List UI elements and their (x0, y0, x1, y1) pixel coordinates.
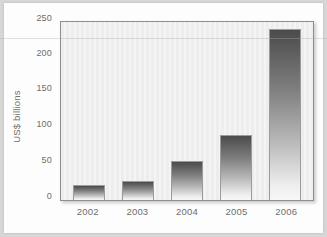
y-tick-label-0: 0 (47, 191, 52, 201)
bar-2003[interactable] (122, 181, 154, 200)
x-tick-label-2005: 2005 (212, 206, 262, 224)
bar-2005[interactable] (220, 135, 252, 200)
figure-canvas: 250 200 150 100 50 0 US$ billions (4, 3, 323, 233)
y-tick-label-150: 150 (36, 83, 52, 93)
y-tick-label-50: 50 (42, 155, 52, 165)
bar-slot-2005 (212, 22, 261, 200)
plot-area (60, 21, 314, 201)
y-tick-label-100: 100 (36, 119, 52, 129)
bar-slot-2003 (113, 22, 162, 200)
y-axis-title: US$ billions (11, 77, 22, 157)
x-tick-label-2006: 2006 (261, 206, 311, 224)
figure-frame: 250 200 150 100 50 0 US$ billions (0, 0, 327, 237)
bar-slot-2004 (162, 22, 211, 200)
y-tick-label-250: 250 (36, 13, 52, 23)
x-tick-label-2004: 2004 (162, 206, 212, 224)
bar-slot-2006 (261, 22, 310, 200)
bar-slot-2002 (64, 22, 113, 200)
bar-2006[interactable] (269, 29, 301, 200)
y-tick-label-200: 200 (36, 48, 52, 58)
bar-2002[interactable] (73, 185, 105, 200)
x-tick-label-2003: 2003 (113, 206, 163, 224)
x-tick-label-2002: 2002 (63, 206, 113, 224)
y-axis: 250 200 150 100 50 0 US$ billions (4, 3, 60, 237)
bar-series (61, 22, 313, 200)
x-axis: 2002 2003 2004 2005 2006 (60, 206, 314, 224)
bar-2004[interactable] (171, 161, 203, 200)
